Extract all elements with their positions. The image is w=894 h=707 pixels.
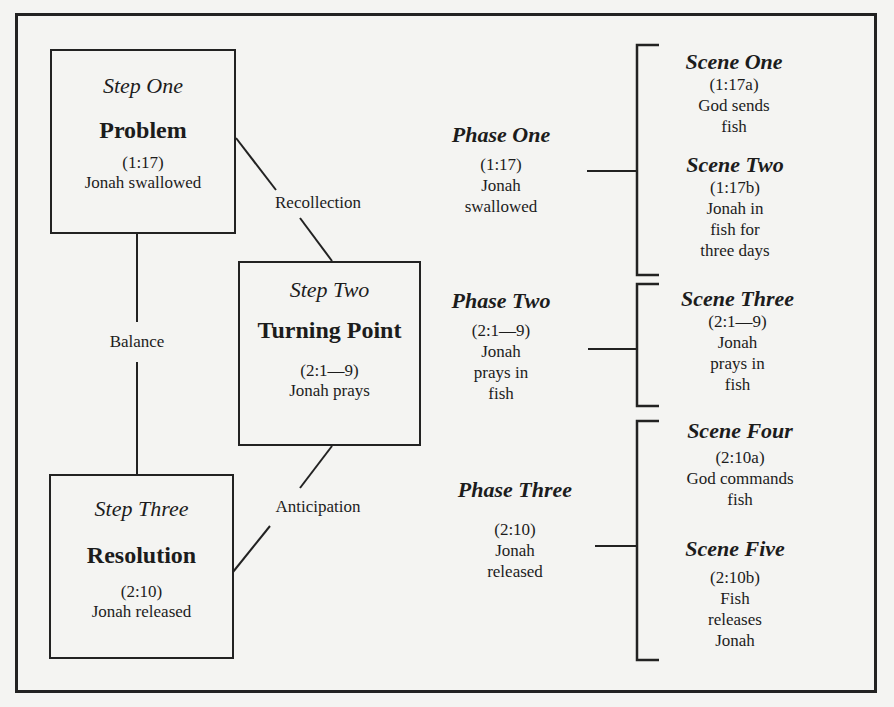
- scene-desc: three days: [660, 240, 810, 261]
- scene-ref: (2:10a): [660, 447, 820, 468]
- phase-title: Phase Three: [440, 477, 590, 503]
- phase-desc: swallowed: [438, 196, 564, 217]
- step-label: Step Two: [240, 277, 419, 303]
- scene-desc: prays in: [660, 353, 815, 374]
- step-two-box: Step Two Turning Point (2:1—9) Jonah pra…: [238, 261, 421, 446]
- scene-one: Scene One (1:17a) God sends fish: [660, 50, 808, 137]
- scene-five: Scene Five (2:10b) Fish releases Jonah: [660, 537, 810, 651]
- scene-desc: fish: [660, 489, 820, 510]
- phase-ref: (1:17): [438, 154, 564, 175]
- scene-desc: Jonah: [660, 630, 810, 651]
- step-desc: Jonah prays: [240, 382, 419, 400]
- connector-label-balance: Balance: [87, 332, 187, 352]
- scene-ref: (1:17a): [660, 74, 808, 95]
- scene-four: Scene Four (2:10a) God commands fish: [660, 419, 820, 510]
- step-label: Step One: [52, 73, 234, 99]
- phase-three: Phase Three (2:10) Jonah released: [440, 477, 590, 582]
- scene-two: Scene Two (1:17b) Jonah in fish for thre…: [660, 153, 810, 261]
- phase-desc: prays in: [438, 362, 564, 383]
- scene-ref: (2:1—9): [660, 311, 815, 332]
- scene-desc: Jonah in: [660, 198, 810, 219]
- scene-desc: God sends: [660, 95, 808, 116]
- step-desc: Jonah swallowed: [52, 174, 234, 192]
- phase-title: Phase Two: [438, 288, 564, 314]
- phase-desc: released: [440, 561, 590, 582]
- phase-ref: (2:1—9): [438, 320, 564, 341]
- phase-ref: (2:10): [440, 519, 590, 540]
- step-one-box: Step One Problem (1:17) Jonah swallowed: [50, 49, 236, 234]
- scene-title: Scene Two: [660, 153, 810, 177]
- phase-title: Phase One: [438, 122, 564, 148]
- scene-desc: Fish: [660, 588, 810, 609]
- phase-desc: Jonah: [438, 175, 564, 196]
- scene-desc: Jonah: [660, 332, 815, 353]
- step-three-box: Step Three Resolution (2:10) Jonah relea…: [49, 474, 234, 659]
- step-title: Problem: [52, 117, 234, 144]
- phase-desc: fish: [438, 383, 564, 404]
- scene-desc: fish: [660, 374, 815, 395]
- step-desc: Jonah released: [51, 603, 232, 621]
- step-ref: (2:1—9): [240, 362, 419, 380]
- scene-title: Scene One: [660, 50, 808, 74]
- scene-title: Scene Five: [660, 537, 810, 561]
- step-ref: (1:17): [52, 154, 234, 172]
- step-label: Step Three: [51, 496, 232, 522]
- scene-title: Scene Four: [660, 419, 820, 443]
- scene-title: Scene Three: [660, 287, 815, 311]
- step-title: Resolution: [51, 542, 232, 569]
- phase-two: Phase Two (2:1—9) Jonah prays in fish: [438, 288, 564, 404]
- step-ref: (2:10): [51, 583, 232, 601]
- connector-label-recollection: Recollection: [258, 193, 378, 213]
- connector-label-anticipation: Anticipation: [258, 497, 378, 517]
- scene-desc: fish for: [660, 219, 810, 240]
- phase-desc: Jonah: [440, 540, 590, 561]
- scene-desc: releases: [660, 609, 810, 630]
- scene-ref: (2:10b): [660, 567, 810, 588]
- scene-ref: (1:17b): [660, 177, 810, 198]
- scene-desc: God commands: [660, 468, 820, 489]
- phase-desc: Jonah: [438, 341, 564, 362]
- phase-one: Phase One (1:17) Jonah swallowed: [438, 122, 564, 217]
- step-title: Turning Point: [240, 317, 419, 344]
- scene-three: Scene Three (2:1—9) Jonah prays in fish: [660, 287, 815, 395]
- scene-desc: fish: [660, 116, 808, 137]
